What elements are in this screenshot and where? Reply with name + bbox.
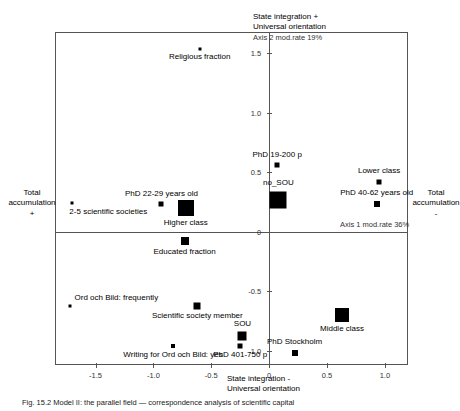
figure-caption: Fig. 15.2 Model II: the parallel field —… <box>22 398 294 407</box>
y-axis-tick <box>267 172 272 173</box>
data-point-label: Writing for Ord och Bild: yes <box>123 351 222 359</box>
pole-label-bottom-line2: Universal orientation <box>227 384 300 394</box>
data-point-label: PhD 22-29 years old <box>125 190 198 198</box>
data-point-label: no_SOU <box>263 179 294 187</box>
x-axis-tick-label: -1.5 <box>89 371 102 380</box>
pole-label-right: Total accumulation - <box>412 188 460 219</box>
data-point-marker <box>335 308 349 322</box>
data-point-label: SOU <box>234 320 251 328</box>
x-axis-tick-label: -1.0 <box>147 371 160 380</box>
figure-scatterplot: 1.51.00.50-0.5-1.0-1.5-1.0-0.500.51.0 Re… <box>0 0 460 411</box>
data-point-marker <box>377 179 382 184</box>
x-axis-tick <box>385 363 386 368</box>
axis1-modrate-annotation: Axis 1 mod.rate 36% <box>340 220 409 229</box>
x-axis-tick <box>211 363 212 368</box>
data-point-marker <box>275 163 280 168</box>
y-axis-tick-label: -0.5 <box>217 287 261 296</box>
x-axis-tick-label: 0.5 <box>322 371 332 380</box>
pole-label-left-line2: accumulation <box>6 198 58 208</box>
data-point-marker <box>238 343 243 348</box>
y-axis-tick-label: 1.0 <box>217 108 261 117</box>
y-axis-tick-label: 0.5 <box>217 168 261 177</box>
data-point-marker <box>69 304 72 307</box>
x-axis-tick-label: -0.5 <box>205 371 218 380</box>
axis2-modrate-annotation: Axis 2 mod.rate 19% <box>253 33 322 42</box>
pole-label-right-line2: accumulation <box>412 198 460 208</box>
data-point-marker <box>171 344 175 348</box>
data-point-label: Ord och Bild: frequently <box>75 294 159 302</box>
data-point-label: PhD 19-200 p <box>253 151 302 159</box>
data-point-label: Higher class <box>164 219 208 227</box>
data-point-marker <box>159 202 164 207</box>
x-axis-tick <box>96 363 97 368</box>
pole-label-bottom-line1: State integration - <box>227 374 300 384</box>
x-axis-tick <box>153 363 154 368</box>
y-axis-tick <box>267 113 272 114</box>
data-point-label: Lower class <box>358 167 400 175</box>
data-point-label: PhD Stockholm <box>267 338 322 346</box>
x-axis-tick-label: 1.0 <box>380 371 390 380</box>
data-point-marker <box>194 302 201 309</box>
pole-label-bottom: State integration - Universal orientatio… <box>227 374 300 395</box>
data-point-marker <box>292 350 298 356</box>
data-point-marker <box>238 332 247 341</box>
data-point-label: Middle class <box>320 325 364 333</box>
data-point-marker <box>270 191 287 208</box>
data-point-marker <box>71 202 74 205</box>
data-point-marker <box>374 201 380 207</box>
x-axis-tick <box>269 363 270 368</box>
y-axis-tick <box>267 53 272 54</box>
pole-label-top-line2: Universal orientation <box>253 22 326 32</box>
data-point-label: Educated fraction <box>153 248 215 256</box>
data-point-marker <box>178 200 194 216</box>
pole-label-left: Total accumulation + <box>6 188 58 219</box>
data-point-label: Scientific society member <box>152 312 243 320</box>
data-point-label: Religious fraction <box>169 53 230 61</box>
data-point-marker <box>198 47 201 50</box>
data-point-label: PhD 40-62 years old <box>340 189 413 197</box>
pole-label-right-line3: - <box>412 209 460 219</box>
y-axis-tick <box>267 232 272 233</box>
pole-label-left-line1: Total <box>6 188 58 198</box>
y-axis-tick <box>267 351 272 352</box>
pole-label-top: State integration + Universal orientatio… <box>253 12 326 33</box>
y-axis-tick <box>267 291 272 292</box>
data-point-marker <box>181 237 189 245</box>
pole-label-right-line1: Total <box>412 188 460 198</box>
y-axis-tick-label: 0 <box>217 227 261 236</box>
x-axis-tick <box>327 363 328 368</box>
pole-label-left-line3: + <box>6 209 58 219</box>
pole-label-top-line1: State integration + <box>253 12 326 22</box>
data-point-label: 2-5 scientific societies <box>69 208 147 216</box>
